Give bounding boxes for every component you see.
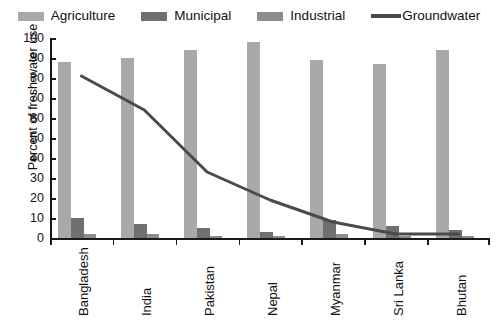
bar-municipal[interactable] — [197, 228, 210, 238]
bar-agriculture[interactable] — [373, 64, 386, 238]
y-tick-label: 90 — [10, 52, 44, 64]
x-axis-label-bangladesh: Bangladesh — [77, 247, 90, 316]
legend-label: Municipal — [174, 9, 231, 23]
bar-group — [239, 38, 302, 238]
y-tick-label: 20 — [10, 192, 44, 204]
bar-group — [113, 38, 176, 238]
x-tick-mark — [488, 240, 490, 245]
x-axis-label-nepal: Nepal — [266, 282, 279, 316]
x-axis-label-pakistan: Pakistan — [203, 266, 216, 316]
legend-label: Industrial — [290, 9, 345, 23]
x-tick-mark — [176, 240, 178, 245]
x-axis-label-india: India — [140, 288, 153, 316]
plot-area: 1009080706050403020100 — [50, 38, 490, 240]
y-tick-label: 0 — [10, 232, 44, 244]
bar-industrial[interactable] — [336, 234, 348, 238]
x-axis-labels: BangladeshIndiaPakistanNepalMyanmarSri L… — [50, 246, 490, 318]
x-axis-label-myanmar: Myanmar — [329, 262, 342, 316]
bar-agriculture[interactable] — [310, 60, 323, 238]
bar-agriculture[interactable] — [436, 50, 449, 238]
bar-municipal[interactable] — [323, 220, 336, 238]
y-tick-label: 80 — [10, 72, 44, 84]
freshwater-use-chart: AgricultureMunicipalIndustrialGroundwate… — [0, 0, 498, 321]
legend-item-municipal[interactable]: Municipal — [141, 9, 231, 23]
y-tick-label: 100 — [10, 32, 44, 44]
x-tick-mark — [113, 240, 115, 245]
bar-municipal[interactable] — [260, 232, 273, 238]
y-tick-label: 30 — [10, 172, 44, 184]
bar-groups — [50, 38, 490, 238]
x-axis-line — [50, 238, 490, 240]
bar-agriculture[interactable] — [247, 42, 260, 238]
x-tick-mark — [50, 240, 52, 245]
bar-industrial[interactable] — [273, 236, 285, 238]
bar-industrial[interactable] — [147, 234, 159, 238]
x-tick-mark — [427, 240, 429, 245]
legend-item-industrial[interactable]: Industrial — [257, 9, 345, 23]
y-tick-label: 70 — [10, 92, 44, 104]
bar-agriculture[interactable] — [184, 50, 197, 238]
bar-industrial[interactable] — [210, 236, 222, 238]
legend-swatch-municipal — [141, 12, 167, 21]
bar-group — [176, 38, 239, 238]
y-tick-label: 10 — [10, 212, 44, 224]
x-tick-mark — [239, 240, 241, 245]
legend-swatch-industrial — [257, 12, 283, 21]
bar-agriculture[interactable] — [121, 58, 134, 238]
bar-municipal[interactable] — [386, 226, 399, 238]
y-tick-label: 40 — [10, 152, 44, 164]
bar-agriculture[interactable] — [58, 62, 71, 238]
bar-group — [50, 38, 113, 238]
bar-municipal[interactable] — [449, 230, 462, 238]
x-axis-label-sri-lanka: Sri Lanka — [392, 261, 405, 316]
legend-item-groundwater[interactable]: Groundwater — [371, 9, 480, 23]
bar-group — [427, 38, 490, 238]
x-tick-mark — [364, 240, 366, 245]
bar-municipal[interactable] — [134, 224, 147, 238]
bar-municipal[interactable] — [71, 218, 84, 238]
chart-legend: AgricultureMunicipalIndustrialGroundwate… — [0, 6, 498, 26]
legend-label: Groundwater — [402, 9, 480, 23]
bar-group — [364, 38, 427, 238]
legend-line-marker-groundwater — [371, 14, 401, 18]
y-tick-label: 60 — [10, 112, 44, 124]
bar-industrial[interactable] — [84, 234, 96, 238]
y-tick-label: 50 — [10, 132, 44, 144]
x-axis-label-bhutan: Bhutan — [455, 275, 468, 316]
bar-group — [301, 38, 364, 238]
bar-industrial[interactable] — [462, 236, 474, 238]
legend-label: Agriculture — [51, 9, 116, 23]
bar-industrial[interactable] — [399, 236, 411, 238]
x-tick-mark — [301, 240, 303, 245]
y-tick-mark — [52, 238, 56, 240]
